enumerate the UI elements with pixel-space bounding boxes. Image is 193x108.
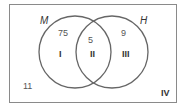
region-iv-value: 11	[23, 81, 32, 91]
venn-diagram: M H 75 5 9 11 I II III IV	[0, 0, 193, 108]
region-ii-label: II	[90, 49, 95, 59]
region-iii-value: 9	[121, 28, 126, 38]
region-iii-label: III	[122, 49, 130, 59]
region-ii-value: 5	[88, 35, 93, 45]
region-iv-label: IV	[161, 88, 170, 98]
set-h-label: H	[140, 15, 148, 26]
region-i-label: I	[59, 49, 62, 59]
set-m-label: M	[40, 15, 49, 26]
region-i-value: 75	[58, 28, 68, 38]
